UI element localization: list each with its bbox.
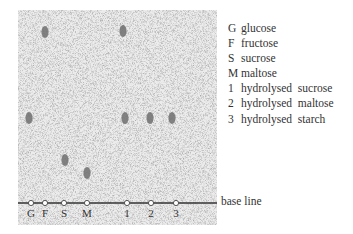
legend-item-glucose: Gglucose xyxy=(228,21,334,36)
origin-point-S xyxy=(61,200,66,205)
legend-item-hydrolysed-sucrose: 1hydrolysed sucrose xyxy=(228,81,334,96)
legend-item-fructose: Ffructose xyxy=(228,36,334,51)
origin-point-3 xyxy=(173,200,178,205)
lane-label-S: S xyxy=(61,207,67,219)
legend-item-maltose: Mmaltose xyxy=(228,66,334,81)
legend-item-sucrose: Ssucrose xyxy=(228,51,334,66)
paper-texture xyxy=(18,10,217,225)
spot-S xyxy=(61,154,68,166)
origin-point-1 xyxy=(124,200,129,205)
legend-label: sucrose xyxy=(241,52,276,64)
chromatogram-graphic xyxy=(18,10,217,225)
legend-key: 2 xyxy=(228,96,241,111)
legend-key: 3 xyxy=(228,112,241,127)
legend-item-hydrolysed-maltose: 2hydrolysed maltose xyxy=(228,96,334,111)
legend-label: fructose xyxy=(241,37,278,49)
origin-point-2 xyxy=(148,200,153,205)
legend-key: M xyxy=(228,66,241,81)
spot-M xyxy=(83,167,90,179)
lane-label-G: G xyxy=(27,207,35,219)
chromatography-paper xyxy=(18,10,217,225)
legend-label: glucose xyxy=(241,22,276,34)
lane-label-3: 3 xyxy=(173,207,179,219)
lane-label-1: 1 xyxy=(124,207,130,219)
spot-3 xyxy=(168,112,175,124)
legend-label: hydrolysed sucrose xyxy=(241,82,332,94)
lane-label-M: M xyxy=(82,207,92,219)
origin-point-M xyxy=(84,200,89,205)
spot-2 xyxy=(146,112,153,124)
spot-G xyxy=(25,112,32,124)
origin-point-F xyxy=(42,200,47,205)
legend-label: hydrolysed starch xyxy=(241,113,325,125)
legend-key: 1 xyxy=(228,81,241,96)
legend: Gglucose Ffructose Ssucrose Mmaltose 1hy… xyxy=(228,21,334,127)
spot-1 xyxy=(119,25,126,37)
legend-key: S xyxy=(228,51,241,66)
legend-label: maltose xyxy=(241,67,277,79)
legend-label: hydrolysed maltose xyxy=(241,97,334,109)
lane-label-F: F xyxy=(42,207,48,219)
lane-label-2: 2 xyxy=(148,207,154,219)
legend-item-hydrolysed-starch: 3hydrolysed starch xyxy=(228,112,334,127)
baseline-label: base line xyxy=(221,195,262,207)
legend-key: F xyxy=(228,36,241,51)
legend-key: G xyxy=(228,21,241,36)
origin-point-G xyxy=(28,200,33,205)
spot-F xyxy=(41,26,48,38)
spot-1 xyxy=(121,112,128,124)
